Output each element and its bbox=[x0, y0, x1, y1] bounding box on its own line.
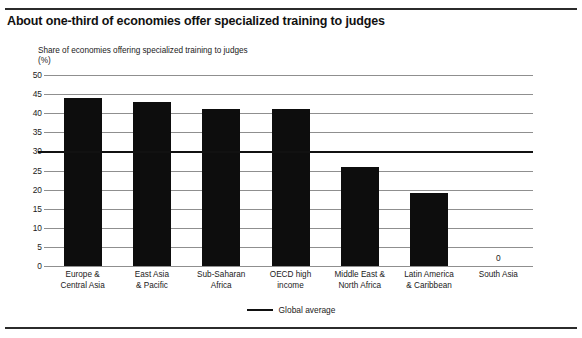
y-axis-tick-label: 10 bbox=[33, 223, 42, 233]
category-label-line: & Caribbean bbox=[396, 281, 462, 292]
global-average-line-swatch bbox=[247, 309, 273, 311]
category-label: Europe &Central Asia bbox=[50, 270, 116, 291]
category-label-line: Africa bbox=[188, 281, 254, 292]
y-axis-tick-mark bbox=[44, 266, 48, 267]
y-axis-tick-mark bbox=[44, 247, 48, 248]
category-label: East Asia& Pacific bbox=[119, 270, 185, 291]
y-axis-tick-mark bbox=[44, 132, 48, 133]
y-axis-tick-mark bbox=[44, 190, 48, 191]
category-label-line: Latin America bbox=[396, 270, 462, 281]
bar bbox=[341, 167, 379, 266]
top-divider bbox=[5, 8, 577, 10]
category-label-line: East Asia bbox=[119, 270, 185, 281]
y-axis-tick-mark bbox=[44, 94, 48, 95]
y-axis-tick-label: 45 bbox=[33, 89, 42, 99]
bar bbox=[272, 109, 310, 266]
y-axis-tick-label: 40 bbox=[33, 108, 42, 118]
bar bbox=[410, 193, 448, 266]
global-average-reference-line bbox=[38, 151, 533, 153]
y-axis-tick-mark bbox=[44, 228, 48, 229]
y-axis-tick-label: 25 bbox=[33, 166, 42, 176]
y-axis-tick-label: 15 bbox=[33, 204, 42, 214]
y-axis-tick-label: 35 bbox=[33, 127, 42, 137]
bottom-divider bbox=[5, 327, 577, 329]
category-label-line: Central Asia bbox=[50, 281, 116, 292]
category-label-line: income bbox=[258, 281, 324, 292]
bar bbox=[64, 98, 102, 266]
bar-value-label: 0 bbox=[479, 253, 517, 263]
legend-item-label: Global average bbox=[279, 305, 336, 315]
category-label-line: OECD high bbox=[258, 270, 324, 281]
axis-unit-label: (%) bbox=[38, 56, 51, 65]
category-label-line: North Africa bbox=[327, 281, 393, 292]
category-label-line: Sub-Saharan bbox=[188, 270, 254, 281]
y-axis-tick-label: 20 bbox=[33, 185, 42, 195]
figure-panel: About one-third of economies offer speci… bbox=[0, 0, 582, 338]
category-label-line: & Pacific bbox=[119, 281, 185, 292]
bar bbox=[133, 102, 171, 266]
y-axis-tick-mark bbox=[44, 171, 48, 172]
bar bbox=[202, 109, 240, 266]
gridline bbox=[48, 266, 533, 267]
category-label-line: Middle East & bbox=[327, 270, 393, 281]
category-label: Latin America& Caribbean bbox=[396, 270, 462, 291]
category-label: OECD highincome bbox=[258, 270, 324, 291]
category-label: Middle East &North Africa bbox=[327, 270, 393, 291]
category-label-line: South Asia bbox=[465, 270, 531, 281]
chart-legend: Global average bbox=[0, 305, 582, 315]
y-axis-tick-label: 0 bbox=[37, 261, 42, 271]
y-axis-tick-mark bbox=[44, 75, 48, 76]
category-axis-labels: Europe &Central AsiaEast Asia& PacificSu… bbox=[48, 270, 533, 298]
chart-plot-area: 051015202530354045500 bbox=[48, 75, 533, 266]
y-axis-tick-label: 5 bbox=[37, 242, 42, 252]
gridline bbox=[48, 75, 533, 76]
y-axis-tick-mark bbox=[44, 209, 48, 210]
category-label: Sub-SaharanAfrica bbox=[188, 270, 254, 291]
gridline bbox=[48, 94, 533, 95]
category-label-line: Europe & bbox=[50, 270, 116, 281]
category-label: South Asia bbox=[465, 270, 531, 281]
y-axis-tick-mark bbox=[44, 113, 48, 114]
y-axis-tick-label: 50 bbox=[33, 70, 42, 80]
axis-caption: Share of economies offering specialized … bbox=[38, 46, 248, 55]
page-title: About one-third of economies offer speci… bbox=[7, 14, 567, 28]
